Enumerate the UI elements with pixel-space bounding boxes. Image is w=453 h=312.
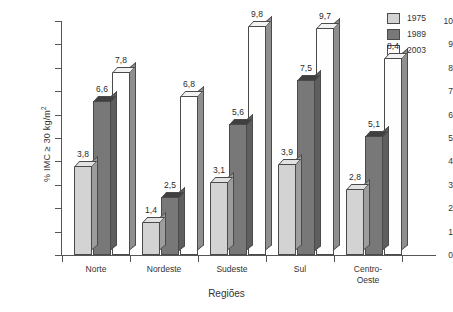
y-axis-tick: [55, 115, 62, 116]
y-axis-tick: [55, 232, 62, 233]
bar-front-face: [142, 222, 160, 255]
y-axis-tick: [55, 161, 62, 162]
bar-value-label: 8,4: [377, 41, 409, 51]
legend-item[interactable]: 1989: [387, 26, 426, 42]
bar-chart: % IMC ≥ 30 kg/m2 012345678910 NorteNorde…: [0, 0, 453, 312]
bar-value-label: 3,8: [67, 149, 99, 159]
bar[interactable]: [74, 166, 92, 255]
y-axis-tick-label: 8: [409, 62, 453, 72]
x-axis-tick: [130, 256, 131, 262]
bar-side-face: [228, 172, 234, 250]
x-axis-line: [61, 255, 436, 256]
bar-side-face: [92, 156, 98, 250]
y-axis-tick-label: 1: [409, 226, 453, 236]
y-axis-tick-label: 5: [409, 133, 453, 143]
bar-value-label: 2,5: [154, 180, 186, 190]
bar[interactable]: [142, 222, 160, 255]
legend-swatch: [387, 29, 400, 40]
bar-value-label: 9,8: [241, 9, 273, 19]
bar-value-label: 1,4: [135, 205, 167, 215]
bar[interactable]: [346, 189, 364, 255]
y-axis-tick-label: 6: [409, 109, 453, 119]
legend-label: 1975: [407, 13, 426, 23]
bar-value-label: 2,8: [339, 172, 371, 182]
bar-side-face: [402, 48, 408, 250]
bar-value-label: 7,8: [105, 55, 137, 65]
bar-value-label: 7,5: [290, 63, 322, 73]
x-axis-tick: [334, 256, 335, 262]
bar-front-face: [74, 166, 92, 255]
bar-side-face: [296, 154, 302, 250]
bar-value-label: 5,1: [358, 119, 390, 129]
y-axis-tick-label: 0: [409, 250, 453, 260]
bar-side-face: [247, 114, 253, 250]
y-axis-tick: [55, 44, 62, 45]
legend-label: 1989: [407, 29, 426, 39]
bar[interactable]: [210, 182, 228, 255]
category-label-line: Oeste: [328, 275, 408, 286]
bar-value-label: 6,6: [86, 84, 118, 94]
bar-value-label: 5,6: [222, 107, 254, 117]
bar-side-face: [364, 179, 370, 250]
x-axis-tick: [402, 256, 403, 262]
y-axis-tick: [55, 255, 62, 256]
bar-side-face: [334, 18, 340, 250]
bar-front-face: [278, 164, 296, 255]
bar-side-face: [315, 69, 321, 250]
bar-value-label: 6,8: [173, 79, 205, 89]
x-axis-category-label: Centro-Oeste: [328, 264, 408, 285]
y-axis-tick: [55, 68, 62, 69]
y-axis-tick: [55, 185, 62, 186]
y-axis-tick: [55, 91, 62, 92]
x-axis-label: Regiões: [0, 288, 453, 299]
y-axis-label: % IMC ≥ 30 kg/m2: [40, 54, 52, 234]
x-axis-tick: [198, 256, 199, 262]
bar[interactable]: [278, 164, 296, 255]
bar-side-face: [111, 91, 117, 250]
y-axis-tick: [55, 21, 62, 22]
bar-front-face: [210, 182, 228, 255]
bar-value-label: 3,1: [203, 165, 235, 175]
bar-value-label: 3,9: [271, 147, 303, 157]
y-axis-tick: [55, 208, 62, 209]
x-axis-tick: [266, 256, 267, 262]
bar-side-face: [266, 16, 272, 250]
legend-label: 2003: [407, 45, 426, 55]
category-label-line: Centro-: [328, 264, 408, 275]
x-axis-tick: [62, 256, 63, 262]
bar-front-face: [346, 189, 364, 255]
y-axis-tick-label: 2: [409, 203, 453, 213]
y-axis-tick-label: 4: [409, 156, 453, 166]
bar-side-face: [130, 62, 136, 250]
y-axis-tick: [55, 138, 62, 139]
legend-swatch: [387, 13, 400, 24]
y-axis-tick-label: 7: [409, 86, 453, 96]
bar-side-face: [383, 126, 389, 250]
y-axis-tick-label: 3: [409, 179, 453, 189]
bar-value-label: 9,7: [309, 11, 341, 21]
legend-item[interactable]: 1975: [387, 10, 426, 26]
